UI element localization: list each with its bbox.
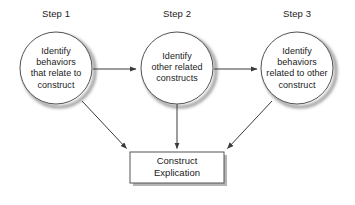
- step-1-text-line-3: that relate to: [31, 68, 82, 79]
- step-1-label: Step 1: [42, 8, 70, 19]
- construct-explication-diagram: Step 1 Step 2 Step 3 Identify behaviors …: [0, 0, 355, 205]
- step-3-label: Step 3: [283, 8, 311, 19]
- step-1-text-line-4: construct: [31, 79, 82, 90]
- result-box-text: Construct Explication: [154, 155, 200, 179]
- step-1-node-text: Identify behaviors that relate to constr…: [31, 46, 82, 91]
- step-3-text-line-4: construct: [266, 79, 327, 90]
- step-1-text-line-1: Identify: [31, 46, 82, 57]
- step-2-label: Step 2: [163, 8, 191, 19]
- step-3-text-line-1: Identify: [266, 46, 327, 57]
- connector-step1-result: [82, 101, 127, 149]
- step-2-text-line-2: other related: [151, 62, 202, 73]
- result-box-line-1: Construct: [154, 155, 200, 167]
- step-3-text-line-3: related to other: [266, 68, 327, 79]
- step-1-text-line-2: behaviors: [31, 57, 82, 68]
- step-2-text-line-1: Identify: [151, 51, 202, 62]
- result-box-line-2: Explication: [154, 167, 200, 179]
- connector-step3-result: [228, 101, 273, 149]
- step-2-node-text: Identify other related constructs: [151, 51, 202, 85]
- step-2-text-line-3: constructs: [151, 74, 202, 85]
- step-3-node-text: Identify behaviors related to other cons…: [266, 46, 327, 91]
- step-3-text-line-2: behaviors: [266, 57, 327, 68]
